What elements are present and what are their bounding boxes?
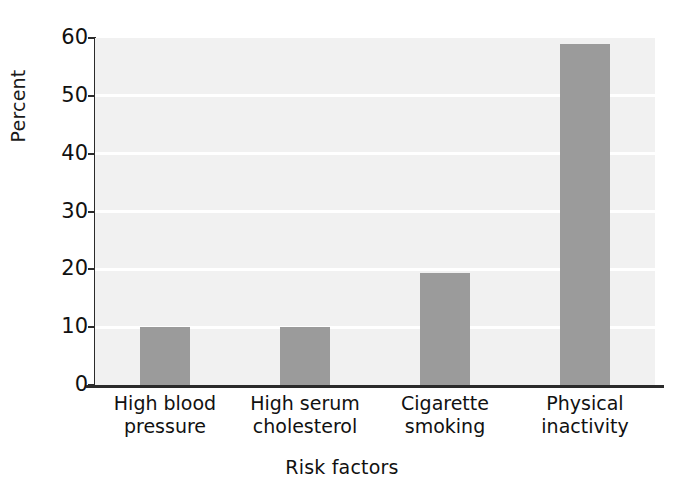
y-axis-title: Percent <box>0 21 36 191</box>
y-tick-label: 40 <box>42 143 88 164</box>
x-tick-label: Physical inactivity <box>515 392 655 438</box>
x-tick-label: Cigarette smoking <box>375 392 515 438</box>
x-tick-label: High blood pressure <box>95 392 235 438</box>
x-axis-title: Risk factors <box>0 456 684 478</box>
x-tick-label: High serum cholesterol <box>235 392 375 438</box>
y-tick-label: 20 <box>42 258 88 279</box>
y-tick-label: 30 <box>42 201 88 222</box>
bar <box>420 273 470 385</box>
y-tick-label: 60 <box>42 27 88 48</box>
x-axis-tick-labels: High blood pressureHigh serum cholestero… <box>95 392 655 452</box>
bar <box>560 44 610 385</box>
bar <box>140 327 190 385</box>
x-axis-line <box>86 385 664 388</box>
bar <box>280 327 330 385</box>
y-tick-label: 50 <box>42 85 88 106</box>
y-axis-tick-labels: 0102030405060 <box>36 0 88 493</box>
y-tick-label: 10 <box>42 316 88 337</box>
plot-area <box>95 38 655 385</box>
y-tick-label: 0 <box>42 374 88 395</box>
bar-chart-figure: Percent 0102030405060 High blood pressur… <box>0 0 684 493</box>
